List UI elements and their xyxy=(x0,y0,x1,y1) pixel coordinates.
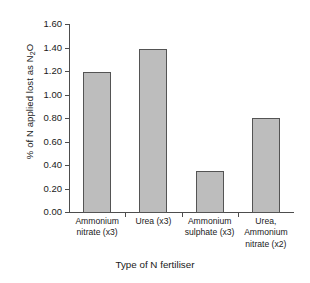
bar-chart-figure: % of N applied lost as N2O 0.000.200.400… xyxy=(0,0,310,283)
x-axis-category-label: Ammoniumnitrate (x3) xyxy=(67,216,127,239)
bar xyxy=(252,118,280,213)
x-axis-category-label-line: Ammonium xyxy=(236,227,296,238)
x-axis-category-label: Urea (x3) xyxy=(123,216,183,227)
x-axis-title: Type of N fertiliser xyxy=(0,259,310,270)
x-axis-category-label-line: Urea, xyxy=(236,216,296,227)
x-axis-category-label-line: Urea (x3) xyxy=(123,216,183,227)
x-axis-category-label-line: nitrate (x2) xyxy=(236,239,296,250)
y-axis-tick-label: 0.60 xyxy=(30,137,62,147)
bar-series xyxy=(69,24,294,213)
y-axis-tick-label: 0.80 xyxy=(30,113,62,123)
y-axis-tick-label: 0.00 xyxy=(30,207,62,217)
bar xyxy=(139,49,167,214)
y-axis-tick-label: 0.20 xyxy=(30,184,62,194)
y-axis-tick-label: 1.00 xyxy=(30,90,62,100)
x-axis-category-label-line: Ammonium xyxy=(180,216,240,227)
x-axis-category-labels: Ammoniumnitrate (x3)Urea (x3)Ammoniumsul… xyxy=(69,216,294,262)
y-axis-tick-label: 1.40 xyxy=(30,43,62,53)
x-axis-category-label-line: Ammonium xyxy=(67,216,127,227)
x-axis-category-label: Ammoniumsulphate (x3) xyxy=(180,216,240,239)
x-axis-category-label-line: nitrate (x3) xyxy=(67,227,127,238)
y-axis-tick-label: 1.20 xyxy=(30,66,62,76)
y-axis-tick-label: 1.60 xyxy=(30,19,62,29)
y-axis-tick-label: 0.40 xyxy=(30,160,62,170)
bar xyxy=(196,171,224,213)
x-axis-category-label-line: sulphate (x3) xyxy=(180,227,240,238)
x-axis-category-label: Urea,Ammoniumnitrate (x2) xyxy=(236,216,296,250)
y-axis-tick-labels: 0.000.200.400.600.801.001.201.401.60 xyxy=(30,0,62,283)
bar xyxy=(83,72,111,213)
